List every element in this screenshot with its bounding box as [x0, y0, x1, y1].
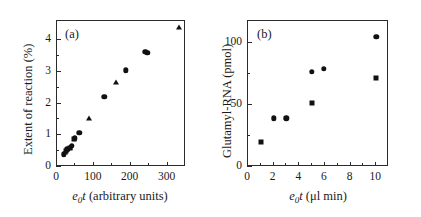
data-point-triangle — [62, 150, 68, 155]
y-tick-minor — [56, 118, 59, 119]
x-tick-major — [350, 162, 351, 167]
x-tick-label: 200 — [121, 171, 138, 183]
x-axis-units-a: (arbitrary units) — [86, 189, 168, 203]
plot-area-a — [57, 21, 184, 165]
y-axis-title-b: Glutamyl-RNA (pmol) — [221, 44, 234, 158]
x-tick-label: 0 — [53, 171, 59, 183]
x-axis-units-b: (μl min) — [303, 189, 347, 203]
x-tick-minor — [362, 163, 363, 166]
x-tick-minor — [285, 163, 286, 166]
x-tick-minor — [74, 163, 75, 166]
panel-label-b: (b) — [257, 28, 272, 41]
y-axis-title-a: Extent of reaction (%) — [22, 44, 35, 155]
x-tick-label: 10 — [369, 171, 381, 183]
x-tick-minor — [111, 163, 112, 166]
y-tick-label: 0 — [26, 160, 51, 172]
data-point-square — [374, 75, 379, 80]
x-tick-label: 300 — [158, 171, 175, 183]
data-point-circle — [101, 94, 106, 99]
y-tick-major — [247, 42, 252, 43]
data-point-circle — [309, 69, 314, 74]
plot-frame-b: (b) — [247, 20, 388, 166]
y-tick-label: 0 — [217, 160, 242, 172]
y-tick-minor — [56, 55, 59, 56]
x-tick-minor — [337, 163, 338, 166]
x-axis-title-a: e0t (arbitrary units) — [72, 190, 167, 205]
y-tick-major — [56, 71, 61, 72]
data-point-triangle — [113, 79, 119, 84]
x-tick-minor — [148, 163, 149, 166]
data-point-triangle — [176, 24, 182, 29]
data-point-circle — [123, 67, 128, 72]
y-tick-major — [56, 39, 61, 40]
x-tick-major — [298, 162, 299, 167]
y-tick-minor — [56, 150, 59, 151]
y-tick-minor — [56, 87, 59, 88]
x-tick-major — [93, 162, 94, 167]
panel-label-a: (a) — [65, 28, 79, 41]
figure-container: (a) 010020030001234 e0t (arbitrary units… — [0, 0, 421, 217]
y-tick-minor — [247, 135, 250, 136]
x-tick-label: 0 — [244, 171, 250, 183]
x-tick-major — [167, 162, 168, 167]
data-point-circle — [373, 34, 378, 39]
panel-b: (b) 0246810050100 e0t (μl min) Glutamyl-… — [208, 0, 421, 217]
x-axis-title-b: e0t (μl min) — [289, 190, 347, 205]
panel-a: (a) 010020030001234 e0t (arbitrary units… — [0, 0, 208, 217]
data-point-square — [71, 136, 76, 141]
data-point-circle — [271, 115, 276, 120]
x-tick-minor — [311, 163, 312, 166]
y-tick-major — [56, 166, 61, 167]
x-tick-label: 100 — [84, 171, 101, 183]
x-tick-minor — [260, 163, 261, 166]
x-tick-label: 6 — [321, 171, 327, 183]
x-tick-major — [324, 162, 325, 167]
plot-area-b — [248, 21, 387, 165]
x-tick-major — [375, 162, 376, 167]
x-tick-label: 2 — [270, 171, 276, 183]
data-point-square — [258, 140, 263, 145]
data-point-circle — [321, 66, 326, 71]
y-tick-major — [56, 103, 61, 104]
data-point-triangle — [86, 116, 92, 121]
x-tick-major — [273, 162, 274, 167]
data-point-circle — [76, 130, 81, 135]
data-point-circle — [284, 115, 289, 120]
plot-frame-a: (a) — [56, 20, 185, 166]
x-tick-label: 4 — [295, 171, 301, 183]
data-point-circle — [145, 50, 150, 55]
data-point-triangle — [67, 145, 73, 150]
y-tick-major — [56, 134, 61, 135]
y-tick-minor — [247, 73, 250, 74]
x-tick-label: 8 — [347, 171, 353, 183]
y-tick-major — [247, 104, 252, 105]
data-point-square — [310, 100, 315, 105]
y-tick-major — [247, 166, 252, 167]
x-tick-major — [130, 162, 131, 167]
